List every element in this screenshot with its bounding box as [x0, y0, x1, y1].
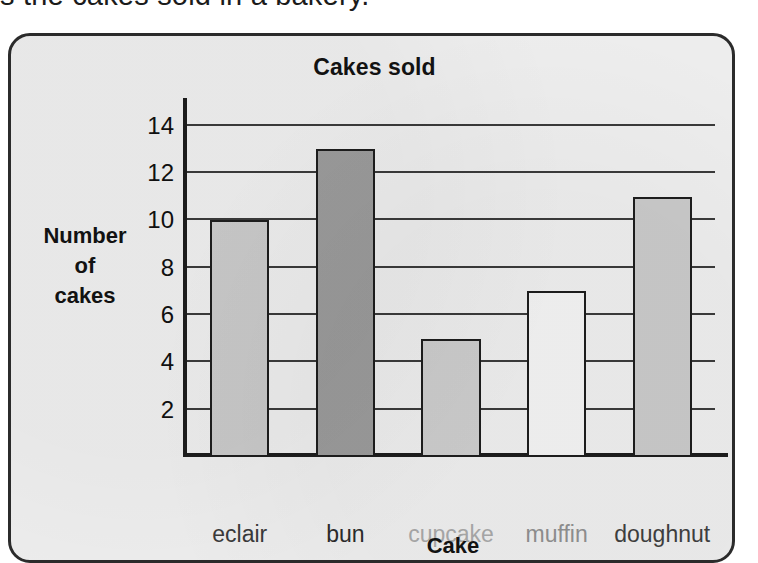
- y-tick-label: 10: [147, 206, 174, 234]
- x-axis-title: Cake: [183, 533, 723, 559]
- chart-title: Cakes sold: [11, 54, 735, 81]
- bar-bun: [316, 149, 375, 457]
- y-axis-title: Number of cakes: [21, 221, 149, 311]
- y-tick-label: 12: [147, 159, 174, 187]
- chart-panel: Cakes sold Number of cakes 2468101214 ec…: [8, 33, 735, 563]
- bar-eclair: [210, 220, 269, 457]
- bar-cupcake: [421, 339, 480, 457]
- bar-doughnut: [633, 197, 692, 457]
- y-tick-label: 8: [161, 254, 174, 282]
- y-axis-title-line-3: cakes: [21, 281, 149, 311]
- gridline-12: [187, 171, 715, 173]
- gridline-14: [187, 124, 715, 126]
- bar-muffin: [527, 291, 586, 457]
- y-tick-label: 4: [161, 348, 174, 376]
- y-tick-label: 6: [161, 301, 174, 329]
- y-axis-line: [183, 98, 187, 453]
- plot-area: 2468101214 eclairbuncupcakemuffindoughnu…: [183, 91, 731, 461]
- y-axis-title-line-1: Number: [21, 221, 149, 251]
- y-tick-label: 2: [161, 396, 174, 424]
- page-header-text: s the cakes sold in a bakery.: [0, 0, 758, 12]
- y-tick-label: 14: [147, 112, 174, 140]
- y-axis-title-line-2: of: [21, 251, 149, 281]
